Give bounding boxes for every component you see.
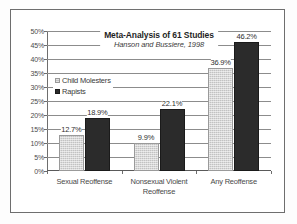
y-axis-tick-label: 20% [31,112,44,119]
bar-rapists [234,42,259,171]
bar-value-label: 12.7% [61,125,81,135]
bar-value-label: 36.9% [211,58,231,68]
x-axis-category-label: Any Reoffense [198,177,269,187]
x-axis-tick-mark [47,171,48,174]
y-axis-tick-label: 50% [31,28,44,35]
legend-label: Child Molesters [62,76,111,85]
bar-child-molesters [59,135,84,171]
y-axis-tick-mark [44,87,47,88]
bar-child-molesters [208,68,233,171]
bar-rapists [85,118,110,171]
y-axis-tick-label: 25% [31,98,44,105]
x-axis-category-label: Nonsexual Violent Reoffense [124,177,195,196]
bar-rapists [160,109,185,171]
y-axis-tick-mark [44,115,47,116]
chart-subtitle: Hanson and Bussiere, 1998 [104,40,214,50]
y-axis-tick-mark [44,157,47,158]
bar-child-molesters [134,143,159,171]
legend-item-child-molesters: Child Molesters [55,75,111,86]
x-axis-category-label: Sexual Reoffense [49,177,120,187]
legend-label: Rapists [62,87,86,96]
bar-value-label: 46.2% [237,32,257,42]
chart-legend: Child Molesters Rapists [53,74,113,98]
y-axis-tick-label: 30% [31,84,44,91]
x-axis-tick-mark [271,171,272,174]
y-axis-tick-label: 35% [31,70,44,77]
y-axis-tick-label: 45% [31,42,44,49]
chart-title: Meta-Analysis of 61 Studies [104,30,214,40]
legend-item-rapists: Rapists [55,86,111,97]
y-axis-tick-label: 10% [31,140,44,147]
y-axis-tick-mark [44,143,47,144]
y-axis-tick-label: 15% [31,126,44,133]
plot-area: 50%45%40%35%30%25%20%15%10%5%0% 12.7%18.… [47,31,271,171]
y-axis-tick-mark [44,59,47,60]
x-axis-tick-mark [196,171,197,174]
y-axis-tick-mark [44,129,47,130]
y-axis-tick-label: 40% [31,56,44,63]
chart-frame: 50%45%40%35%30%25%20%15%10%5%0% 12.7%18.… [10,9,285,213]
y-axis-tick-mark [44,73,47,74]
y-axis-tick-mark [44,45,47,46]
chart-title-block: Meta-Analysis of 61 Studies Hanson and B… [100,30,218,50]
x-axis-tick-mark [122,171,123,174]
bar-value-label: 18.9% [87,108,107,118]
legend-swatch-icon [55,89,60,94]
y-axis-tick-label: 5% [34,154,44,161]
y-axis-tick-label: 0% [34,168,44,175]
chart-page: 50%45%40%35%30%25%20%15%10%5%0% 12.7%18.… [0,0,297,224]
bar-value-label: 22.1% [162,99,182,109]
bar-value-label: 9.9% [138,133,154,143]
y-axis-tick-mark [44,31,47,32]
y-axis-tick-mark [44,101,47,102]
legend-swatch-icon [55,78,60,83]
